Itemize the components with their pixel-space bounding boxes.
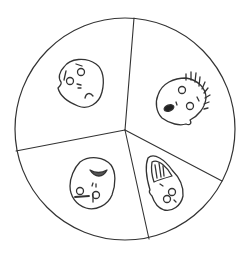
sad-face-icon bbox=[58, 59, 103, 107]
surprised-face-icon bbox=[156, 72, 210, 125]
emotion-wheel-diagram bbox=[0, 0, 249, 255]
happy-face-icon bbox=[146, 156, 183, 210]
angry-face-icon bbox=[70, 158, 115, 209]
